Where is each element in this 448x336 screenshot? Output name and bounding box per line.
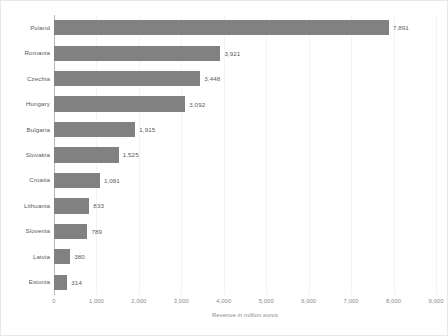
bar-value-label: 789: [91, 228, 102, 235]
bar: [54, 96, 185, 111]
x-tick-label: 5,000: [259, 298, 274, 304]
x-tick-label: 3,000: [174, 298, 189, 304]
bar: [54, 20, 389, 35]
category-label: Hungary: [26, 100, 50, 107]
bar-row: 3,448: [54, 71, 436, 86]
x-tick-label: 0: [52, 298, 55, 304]
bar-value-label: 1,081: [104, 177, 120, 184]
bar-row: 1,525: [54, 147, 436, 162]
bar: [54, 275, 67, 290]
bar: [54, 249, 70, 264]
bar-row: 314: [54, 275, 436, 290]
category-label: Poland: [30, 24, 50, 31]
category-label: Latvia: [33, 253, 50, 260]
bar-value-label: 7,891: [393, 24, 409, 31]
bar-row: 3,092: [54, 96, 436, 111]
bar-row: 1,081: [54, 173, 436, 188]
x-tick-label: 4,000: [216, 298, 231, 304]
bar-value-label: 3,448: [204, 75, 220, 82]
category-label: Czechia: [27, 75, 50, 82]
x-tick-label: 9,000: [428, 298, 443, 304]
category-label: Estonia: [29, 278, 50, 285]
bar-value-label: 1,525: [123, 151, 139, 158]
category-label: Slovakia: [26, 151, 50, 158]
x-axis-title: Revenue in million euros: [54, 312, 436, 318]
bar-row: 1,915: [54, 122, 436, 137]
x-tick-label: 2,000: [131, 298, 146, 304]
category-label: Romania: [25, 49, 50, 56]
bar-row: 833: [54, 198, 436, 213]
plot-area: 7,8913,9213,4483,0921,9151,5251,08183378…: [54, 15, 436, 295]
bar: [54, 198, 89, 213]
bar-series: 7,8913,9213,4483,0921,9151,5251,08183378…: [54, 15, 436, 295]
x-tick-label: 7,000: [344, 298, 359, 304]
category-axis-labels: PolandRomaniaCzechiaHungaryBulgariaSlova…: [1, 15, 50, 295]
bar: [54, 71, 200, 86]
bar-value-label: 3,921: [224, 50, 240, 57]
bar: [54, 224, 87, 239]
bar-chart-figure: PolandRomaniaCzechiaHungaryBulgariaSlova…: [0, 0, 448, 336]
bar: [54, 173, 100, 188]
x-tick-label: 8,000: [386, 298, 401, 304]
category-label: Bulgaria: [26, 126, 50, 133]
category-label: Lithuania: [24, 202, 50, 209]
bar: [54, 46, 220, 61]
value-axis-tick-labels: 01,0002,0003,0004,0005,0006,0007,0008,00…: [54, 298, 436, 308]
x-tick-label: 6,000: [301, 298, 316, 304]
gridline: [436, 15, 437, 295]
bar-row: 380: [54, 249, 436, 264]
x-tick-label: 1,000: [89, 298, 104, 304]
bar-value-label: 380: [74, 253, 85, 260]
bar-value-label: 314: [71, 279, 82, 286]
bar-row: 7,891: [54, 20, 436, 35]
bar: [54, 122, 135, 137]
category-label: Croatia: [29, 176, 50, 183]
bar-row: 3,921: [54, 46, 436, 61]
bar-value-label: 1,915: [139, 126, 155, 133]
bar-value-label: 3,092: [189, 101, 205, 108]
bar-value-label: 833: [93, 202, 104, 209]
bar-row: 789: [54, 224, 436, 239]
category-label: Slovenia: [25, 227, 50, 234]
bar: [54, 147, 119, 162]
